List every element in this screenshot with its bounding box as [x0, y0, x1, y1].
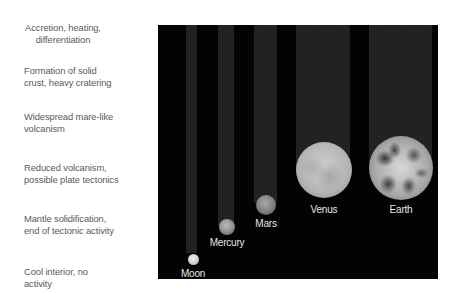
stage-label-crust-formation: Formation of solid crust, heavy craterin… [24, 65, 152, 89]
stage-label-line: Accretion, heating, [24, 22, 102, 34]
moon-trail [186, 25, 197, 253]
moon-icon [188, 254, 199, 265]
earth-icon [369, 136, 433, 200]
earth-label: Earth [390, 204, 413, 215]
mercury-icon [219, 219, 235, 235]
moon-label: Moon [181, 268, 205, 279]
stage-label-cool-interior: Cool interior, no activity [24, 266, 152, 290]
stage-label-line: Reduced volcanism, [24, 162, 152, 174]
stage-label-line: Formation of solid [24, 65, 152, 77]
stage-label-plate-tectonics: Reduced volcanism, possible plate tecton… [24, 162, 152, 186]
stage-label-line: volcanism [24, 123, 152, 135]
stage-label-line: Widespread mare-like [24, 111, 152, 123]
stage-label-accretion: Accretion, heating, differentiation [24, 22, 102, 46]
venus-icon [296, 142, 352, 198]
venus-label: Venus [311, 204, 338, 215]
stage-label-line: crust, heavy cratering [24, 77, 152, 89]
stage-label-line: end of tectonic activity [24, 225, 152, 237]
mercury-trail [218, 25, 234, 225]
stage-label-mare-volcanism: Widespread mare-like volcanism [24, 111, 152, 135]
stage-label-mantle-solidification: Mantle solidification, end of tectonic a… [24, 213, 152, 237]
stage-label-line: Mantle solidification, [24, 213, 152, 225]
mars-icon [256, 195, 276, 215]
mars-label: Mars [255, 218, 276, 229]
stage-label-line: differentiation [24, 34, 102, 46]
stage-label-line: activity [24, 278, 152, 290]
mercury-label: Mercury [210, 237, 245, 248]
mars-trail [254, 25, 277, 203]
stage-label-line: possible plate tectonics [24, 174, 152, 186]
planet-evolution-panel: Moon Mercury Mars Venus Earth [158, 25, 438, 279]
stage-label-line: Cool interior, no [24, 266, 152, 278]
